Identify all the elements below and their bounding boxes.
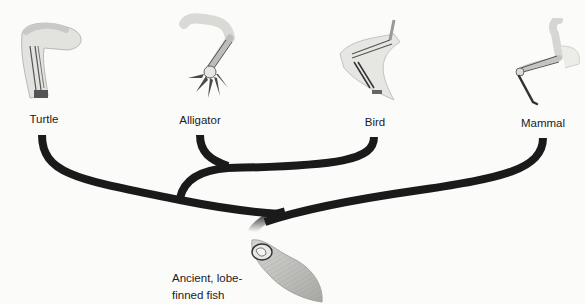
branch-turtle <box>42 135 280 214</box>
ancestor-label: Ancient, lobe- finned fish <box>172 270 242 304</box>
branch-archosaur-stem <box>180 168 228 198</box>
turtle-forelimb-icon <box>8 8 88 108</box>
alligator-forelimb-icon <box>170 10 250 105</box>
taxon-label-mammal: Mammal <box>521 117 565 130</box>
mammal-forelimb-icon <box>505 18 585 113</box>
ancestor-label-line2: finned fish <box>172 287 242 304</box>
phylogenetic-tree-diagram: Turtle Alligator Bird Mammal Ancient, lo… <box>0 0 585 304</box>
taxon-label-alligator: Alligator <box>179 114 221 127</box>
bird-wing-icon <box>336 12 416 107</box>
ancestor-label-line1: Ancient, lobe- <box>172 270 242 287</box>
lobe-fin-icon <box>240 236 330 304</box>
branch-alligator <box>200 135 228 166</box>
branch-mammal <box>265 138 543 222</box>
branch-bird <box>228 137 374 168</box>
taxon-label-bird: Bird <box>365 116 385 129</box>
taxon-label-turtle: Turtle <box>30 113 59 126</box>
